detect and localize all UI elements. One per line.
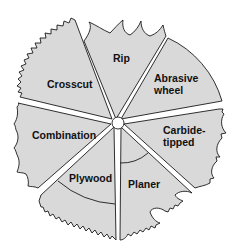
label-abrasive-wheel: Abrasive: [154, 72, 199, 84]
label-planer: Planer: [128, 178, 160, 190]
label-carbide-tipped: Carbide-: [163, 124, 206, 136]
label-plywood: Plywood: [69, 172, 112, 184]
arbor-hole: [112, 117, 124, 129]
saw-blade-diagram: Rip Abrasive wheel Carbide- tipped Plane…: [0, 0, 238, 247]
label-abrasive-wheel-2: wheel: [153, 84, 183, 96]
label-carbide-tipped-2: tipped: [163, 136, 195, 148]
label-combination: Combination: [32, 129, 96, 141]
label-crosscut: Crosscut: [47, 78, 93, 90]
label-rip: Rip: [113, 52, 130, 64]
